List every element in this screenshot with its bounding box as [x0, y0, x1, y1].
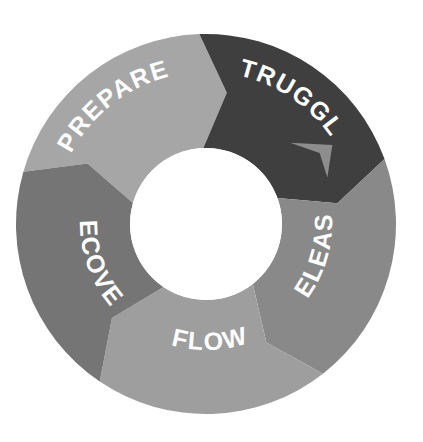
center-hole [130, 148, 282, 300]
cycle-diagram-svg: PREPARESTRUGGLERELEASEFLOWRECOVER [0, 0, 423, 442]
cycle-diagram-root: PREPARESTRUGGLERELEASEFLOWRECOVER [0, 0, 423, 442]
